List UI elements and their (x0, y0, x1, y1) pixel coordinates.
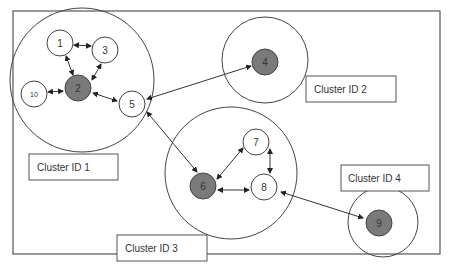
cluster-diagram: 1 2 3 4 5 6 7 8 9 10 Cluster ID 1 (0, 0, 449, 268)
node-2: 2 (65, 75, 91, 101)
svg-text:2: 2 (75, 83, 81, 94)
node-5: 5 (119, 91, 145, 117)
svg-text:4: 4 (262, 57, 268, 68)
cluster-4-label: Cluster ID 4 (341, 165, 429, 191)
node-6: 6 (190, 173, 216, 199)
svg-text:7: 7 (253, 137, 259, 148)
cluster-3-label: Cluster ID 3 (117, 235, 207, 261)
svg-text:Cluster ID 2: Cluster ID 2 (314, 84, 367, 95)
node-1: 1 (47, 30, 73, 56)
node-4: 4 (252, 49, 278, 75)
node-3: 3 (92, 37, 118, 63)
svg-text:6: 6 (200, 181, 206, 192)
cluster-1-label: Cluster ID 1 (29, 154, 118, 180)
svg-text:Cluster ID 3: Cluster ID 3 (125, 243, 178, 254)
svg-text:5: 5 (129, 99, 135, 110)
node-7: 7 (243, 129, 269, 155)
svg-text:Cluster ID 1: Cluster ID 1 (37, 162, 90, 173)
cluster-2-label: Cluster ID 2 (306, 76, 396, 102)
node-8: 8 (251, 174, 277, 200)
svg-text:3: 3 (102, 45, 108, 56)
node-9: 9 (366, 210, 392, 236)
svg-text:1: 1 (57, 38, 63, 49)
svg-text:9: 9 (376, 218, 382, 229)
svg-text:8: 8 (261, 182, 267, 193)
node-10: 10 (21, 81, 47, 107)
svg-text:10: 10 (30, 91, 38, 98)
svg-text:Cluster ID 4: Cluster ID 4 (348, 173, 401, 184)
